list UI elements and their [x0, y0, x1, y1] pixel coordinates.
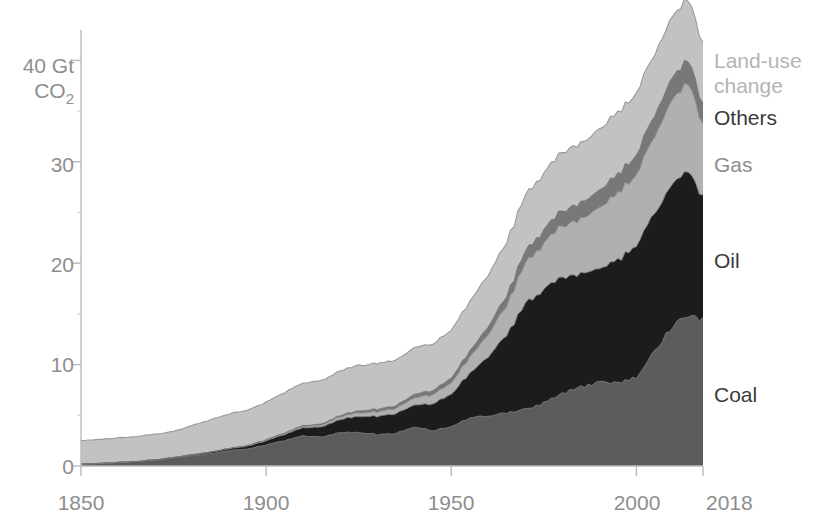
stacked-area-chart: 40 Gt CO2 30 20 10 0 1850 1900 1950 2000… — [0, 0, 829, 531]
x-tick-label-2018: 2018 — [706, 491, 753, 514]
x-tick-label-1950: 1950 — [428, 491, 475, 514]
series-label-coal: Coal — [714, 383, 757, 406]
series-label-land-use-change-line1: Land-use — [714, 49, 802, 72]
series-label-land-use-change-line2: change — [714, 74, 783, 97]
y-tick-label-30: 30 — [51, 153, 74, 176]
y-tick-label-0: 0 — [62, 455, 74, 478]
co2-text: CO — [34, 79, 66, 102]
page-bottom-artifact-strip — [0, 517, 829, 531]
series-label-oil: Oil — [714, 249, 740, 272]
x-tick-label-2000: 2000 — [614, 491, 661, 514]
x-tick-label-1850: 1850 — [58, 491, 105, 514]
chart-page: 40 Gt CO2 30 20 10 0 1850 1900 1950 2000… — [0, 0, 829, 531]
y-axis-unit-label-co2: CO2 — [34, 79, 74, 107]
y-axis-unit-label-40gt: 40 Gt — [23, 54, 75, 77]
co2-subscript: 2 — [66, 90, 74, 107]
series-label-gas: Gas — [714, 153, 753, 176]
x-tick-label-1900: 1900 — [243, 491, 290, 514]
y-tick-label-10: 10 — [51, 353, 74, 376]
y-tick-label-20: 20 — [51, 253, 74, 276]
series-label-others: Others — [714, 106, 777, 129]
